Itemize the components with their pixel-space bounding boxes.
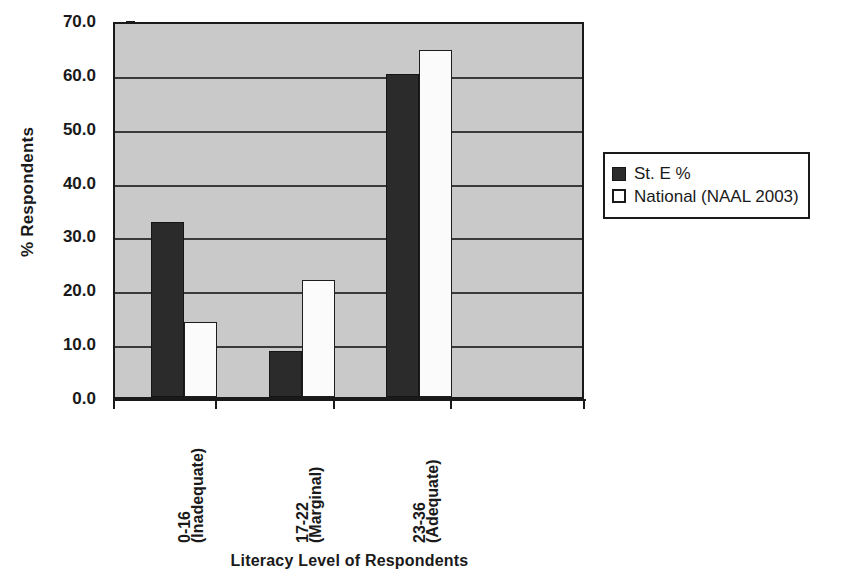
gridline bbox=[115, 238, 582, 240]
bar bbox=[302, 280, 335, 397]
y-tick-label: 60.0 bbox=[30, 67, 96, 84]
bar bbox=[151, 222, 184, 397]
legend-swatch-icon bbox=[612, 189, 626, 203]
gridline bbox=[115, 131, 582, 133]
legend: St. E % National (NAAL 2003) bbox=[603, 152, 810, 219]
bar bbox=[386, 74, 419, 397]
gridline bbox=[115, 77, 582, 79]
gridline bbox=[115, 292, 582, 294]
legend-swatch-icon bbox=[612, 167, 626, 181]
bar bbox=[419, 50, 452, 397]
x-tick-mark bbox=[450, 399, 452, 409]
y-tick-label: 10.0 bbox=[30, 336, 96, 353]
x-tick-label: 23-36 (Adequate) bbox=[413, 393, 439, 543]
plot-area bbox=[113, 22, 584, 399]
x-tick-mark bbox=[113, 399, 115, 409]
legend-item: National (NAAL 2003) bbox=[612, 187, 799, 207]
x-tick-label: 17-22 (Marginal) bbox=[296, 393, 322, 543]
y-tick-label: 20.0 bbox=[30, 282, 96, 299]
bar-chart: % Respondents 70.060.050.040.030.020.010… bbox=[0, 0, 855, 584]
y-tick-label: 40.0 bbox=[30, 175, 96, 192]
y-tick-label: 30.0 bbox=[30, 228, 96, 245]
y-tick-label: 70.0 bbox=[30, 13, 96, 30]
legend-label: National (NAAL 2003) bbox=[634, 187, 799, 207]
legend-item: St. E % bbox=[612, 164, 799, 184]
y-tick-label: 0.0 bbox=[30, 390, 96, 407]
bar bbox=[269, 351, 302, 397]
x-tick-mark bbox=[583, 399, 585, 409]
y-tick-label: 50.0 bbox=[30, 121, 96, 138]
x-axis-title: Literacy Level of Respondents bbox=[113, 552, 586, 570]
x-tick-mark bbox=[215, 399, 217, 409]
x-tick-label: 0-16 (Inadequate) bbox=[178, 393, 204, 543]
y-axis-ticks: 70.060.050.040.030.020.010.00.0 bbox=[30, 0, 96, 584]
bar bbox=[184, 322, 217, 397]
legend-label: St. E % bbox=[634, 164, 691, 184]
gridline bbox=[115, 185, 582, 187]
x-tick-mark bbox=[333, 399, 335, 409]
